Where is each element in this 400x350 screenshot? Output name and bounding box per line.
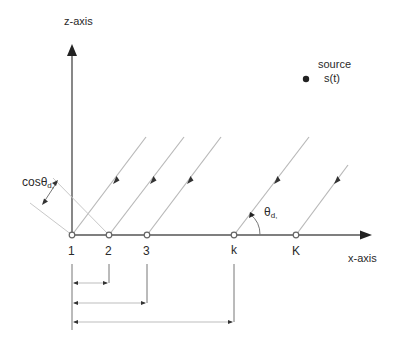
z-axis-arrowhead-icon — [67, 44, 77, 56]
sensor-label-k: k — [231, 243, 238, 257]
wavefront-sensor-1 — [30, 203, 72, 235]
source-signal-label: s(t) — [324, 72, 340, 84]
sensor-K — [293, 232, 299, 238]
ray-sensor-1 — [72, 137, 146, 235]
incoming-rays — [72, 137, 348, 235]
sensor-label-3: 3 — [143, 244, 150, 258]
x-axis-arrowhead-icon — [360, 231, 372, 240]
ray-sensor-k — [234, 137, 309, 235]
z-axis-label: z-axis — [64, 15, 93, 27]
path-difference-label: cosθd, — [22, 175, 54, 190]
array-geometry-diagram: z-axis x-axis source s(t) cosθd, — [0, 0, 400, 350]
ray-arrow-icon — [274, 176, 281, 184]
source-label: source — [318, 58, 351, 70]
sensor-k — [231, 232, 237, 238]
distance-brackets — [72, 264, 234, 330]
sensor-label-1: 1 — [68, 244, 75, 258]
sensor-2 — [106, 232, 112, 238]
sensor-label-K: K — [292, 244, 300, 258]
sensor-label-2: 2 — [105, 244, 112, 258]
dim-arrow-icon — [42, 199, 48, 206]
source-dot-icon — [303, 76, 309, 82]
angle-marker — [249, 212, 260, 235]
ray-sensor-K — [296, 165, 348, 235]
ray-sensor-2 — [109, 137, 184, 235]
sensor-1 — [69, 232, 75, 238]
angle-label: θd, — [264, 205, 277, 220]
x-axis-label: x-axis — [348, 252, 377, 264]
z-axis — [67, 44, 77, 235]
angle-arrow-icon — [249, 212, 255, 218]
x-axis — [72, 231, 372, 240]
sensor-3 — [144, 232, 150, 238]
ray-sensor-3 — [147, 137, 221, 235]
